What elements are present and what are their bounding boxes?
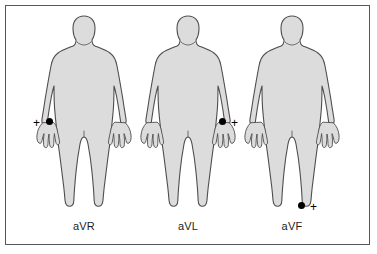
lead-label-avr: aVR [24,220,144,233]
electrode-marker-avr [46,118,53,125]
polarity-sign-avr: + [33,117,40,129]
figure-group-avl: + aVL [128,6,248,246]
diagram-panel: + aVR + aVL [5,5,370,245]
electrode-marker-avl [219,118,226,125]
lead-label-avf: aVF [232,220,352,233]
lead-label-avl: aVL [128,220,248,233]
human-body-silhouette [128,12,248,220]
human-body-silhouette [24,12,144,220]
figure-group-avf: + aVF [232,6,352,246]
electrode-marker-avf [298,202,305,209]
human-body-silhouette [232,12,352,220]
figure-group-avr: + aVR [24,6,144,246]
polarity-sign-avf: + [310,201,317,213]
